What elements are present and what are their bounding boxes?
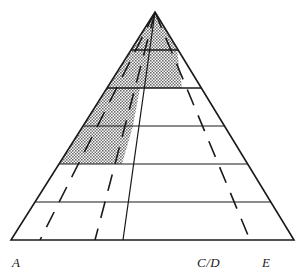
- axis-label-a: A: [12, 255, 20, 271]
- axis-label-cd: C/D: [197, 255, 220, 271]
- axis-label-e: E: [262, 255, 270, 271]
- pyramid-diagram-canvas: [0, 0, 302, 276]
